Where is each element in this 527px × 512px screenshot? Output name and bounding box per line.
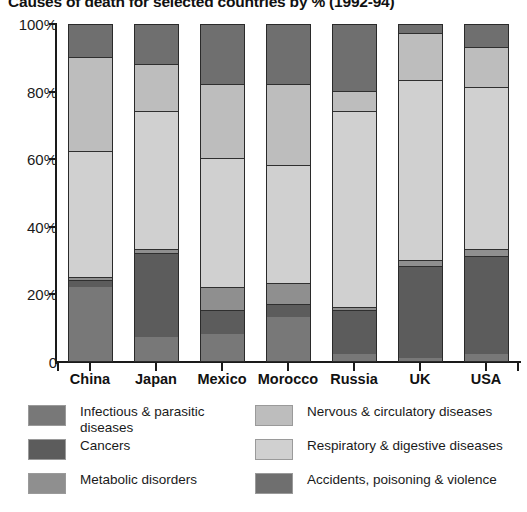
bar-segment[interactable] <box>267 317 310 361</box>
y-tick-label: 0 <box>9 354 57 371</box>
bar-segment[interactable] <box>465 24 508 47</box>
x-tick-mark <box>287 363 289 371</box>
legend-item[interactable]: Infectious & parasitic diseases <box>28 404 258 435</box>
bar-segment[interactable] <box>465 256 508 354</box>
x-tick-mark <box>353 363 355 371</box>
legend-item[interactable]: Accidents, poisoning & violence <box>255 472 497 494</box>
legend-label: Metabolic disorders <box>80 472 197 488</box>
legend-swatch-icon <box>255 473 293 494</box>
legend-swatch-icon <box>255 439 293 460</box>
bar-group-morocco <box>266 24 311 362</box>
x-tick-mark <box>57 363 59 371</box>
stacked-bar[interactable] <box>332 24 377 362</box>
bar-segment[interactable] <box>465 249 508 256</box>
x-axis-label-mexico: Mexico <box>189 371 255 387</box>
y-tick-mark <box>49 293 57 295</box>
bar-segment[interactable] <box>333 310 376 354</box>
bar-segment[interactable] <box>465 47 508 88</box>
bar-segment[interactable] <box>399 24 442 33</box>
x-axis-label-uk: UK <box>387 371 453 387</box>
legend-swatch-icon <box>28 473 66 494</box>
bar-segment[interactable] <box>135 24 178 64</box>
bar-segment[interactable] <box>201 310 244 334</box>
legend-label: Cancers <box>80 438 130 454</box>
bar-segment[interactable] <box>135 64 178 111</box>
x-tick-mark <box>485 363 487 371</box>
bar-segment[interactable] <box>201 158 244 286</box>
legend-item[interactable]: Respiratory & digestive diseases <box>255 438 503 460</box>
bar-segment[interactable] <box>333 91 376 111</box>
x-axis-label-japan: Japan <box>123 371 189 387</box>
x-tick-mark <box>155 363 157 371</box>
legend-swatch-icon <box>28 405 66 426</box>
bar-segment[interactable] <box>333 24 376 91</box>
legend-item[interactable]: Cancers <box>28 438 130 460</box>
stacked-bar[interactable] <box>134 24 179 362</box>
bar-segment[interactable] <box>333 354 376 361</box>
bar-segment[interactable] <box>465 87 508 249</box>
x-axis-label-morocco: Morocco <box>255 371 321 387</box>
legend-swatch-icon <box>28 439 66 460</box>
stacked-bar[interactable] <box>266 24 311 362</box>
bar-segment[interactable] <box>333 111 376 307</box>
bar-segment[interactable] <box>267 283 310 303</box>
bar-segment[interactable] <box>399 33 442 80</box>
legend-label: Respiratory & digestive diseases <box>307 438 503 454</box>
bar-segment[interactable] <box>135 249 178 252</box>
stacked-bar[interactable] <box>464 24 509 362</box>
bar-group-russia <box>332 24 377 362</box>
bar-segment[interactable] <box>201 334 244 361</box>
legend-label: Nervous & circulatory diseases <box>307 404 492 420</box>
stacked-bar[interactable] <box>68 24 113 362</box>
plot-area <box>57 24 519 362</box>
legend-item[interactable]: Metabolic disorders <box>28 472 197 494</box>
chart-legend: Infectious & parasitic diseasesCancersMe… <box>28 404 523 504</box>
bar-group-china <box>68 24 113 362</box>
x-tick-mark <box>517 363 519 371</box>
bar-segment[interactable] <box>201 84 244 158</box>
bar-segment[interactable] <box>333 307 376 310</box>
legend-swatch-icon <box>255 405 293 426</box>
y-tick-mark <box>49 23 57 25</box>
bar-segment[interactable] <box>69 280 112 287</box>
bar-segment[interactable] <box>69 151 112 276</box>
legend-item[interactable]: Nervous & circulatory diseases <box>255 404 492 426</box>
x-axis-label-usa: USA <box>453 371 519 387</box>
bar-group-japan <box>134 24 179 362</box>
bar-segment[interactable] <box>69 57 112 152</box>
bar-segment[interactable] <box>399 80 442 259</box>
bar-segment[interactable] <box>201 287 244 311</box>
bar-segment[interactable] <box>267 24 310 84</box>
stacked-bar[interactable] <box>398 24 443 362</box>
bar-segment[interactable] <box>135 337 178 361</box>
bar-segment[interactable] <box>399 358 442 361</box>
bar-segment[interactable] <box>399 260 442 267</box>
bar-group-uk <box>398 24 443 362</box>
x-tick-mark <box>419 363 421 371</box>
bar-segment[interactable] <box>135 111 178 250</box>
bar-segment[interactable] <box>267 165 310 283</box>
bar-group-usa <box>464 24 509 362</box>
x-tick-mark <box>89 363 91 371</box>
bar-segment[interactable] <box>69 287 112 361</box>
legend-label: Accidents, poisoning & violence <box>307 472 497 488</box>
x-tick-mark <box>221 363 223 371</box>
y-tick-mark <box>49 226 57 228</box>
bar-segment[interactable] <box>465 354 508 361</box>
bar-segment[interactable] <box>135 253 178 338</box>
stacked-bar[interactable] <box>200 24 245 362</box>
bar-segment[interactable] <box>69 24 112 57</box>
bar-segment[interactable] <box>267 304 310 318</box>
y-tick-mark <box>49 91 57 93</box>
bar-segment[interactable] <box>69 277 112 280</box>
bar-segment[interactable] <box>201 24 244 84</box>
x-axis-label-china: China <box>57 371 123 387</box>
x-axis-label-russia: Russia <box>321 371 387 387</box>
y-tick-mark <box>49 158 57 160</box>
page-title: Causes of death for selected countries b… <box>8 0 395 11</box>
bar-group-mexico <box>200 24 245 362</box>
bar-segment[interactable] <box>399 266 442 357</box>
legend-label: Infectious & parasitic diseases <box>80 404 258 435</box>
bar-segment[interactable] <box>267 84 310 165</box>
